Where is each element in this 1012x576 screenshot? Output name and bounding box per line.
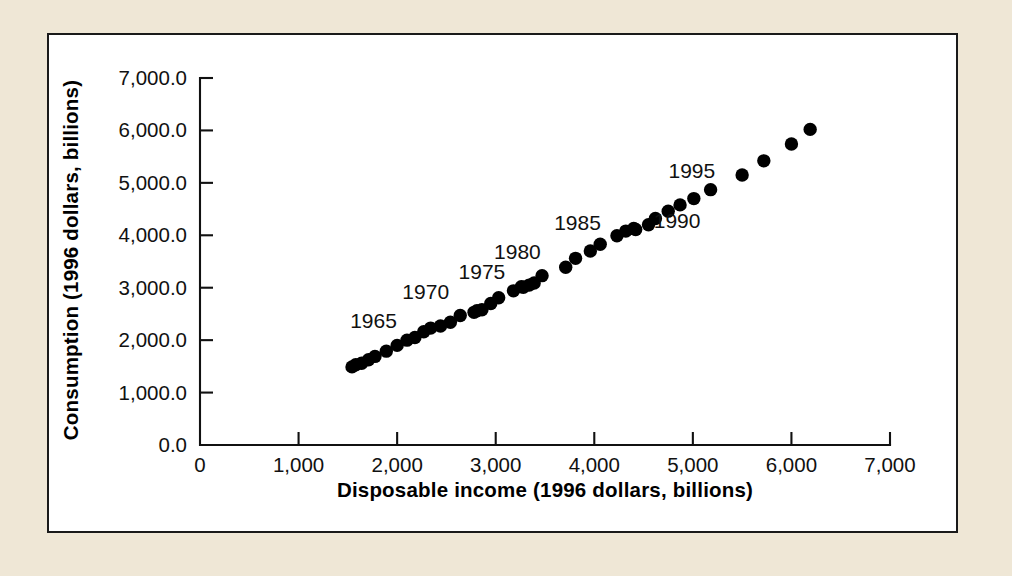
x-tick-label: 0 — [194, 453, 205, 476]
data-point — [454, 309, 467, 322]
data-point — [687, 192, 700, 205]
data-point — [569, 252, 582, 265]
data-point — [492, 291, 505, 304]
y-axis-title: Consumption (1996 dollars, billions) — [59, 80, 82, 440]
data-point — [785, 137, 798, 150]
y-tick-label: 7,000.0 — [119, 66, 187, 89]
year-annotation-1965: 1965 — [350, 309, 397, 332]
y-tick-label: 6,000.0 — [119, 118, 187, 141]
x-tick-label: 5,000 — [667, 453, 718, 476]
axis-ticks — [200, 78, 890, 445]
data-points — [345, 123, 817, 374]
data-point — [535, 269, 548, 282]
y-tick-label: 3,000.0 — [119, 276, 187, 299]
x-axis-title: Disposable income (1996 dollars, billion… — [337, 478, 753, 501]
year-annotation-1995: 1995 — [669, 159, 716, 182]
y-tick-label: 5,000.0 — [119, 171, 187, 194]
scatter-plot: 0.01,000.02,000.03,000.04,000.05,000.06,… — [0, 0, 1012, 576]
x-axis-tick-labels: 01,0002,0003,0004,0005,0006,0007,000 — [194, 453, 915, 476]
y-axis-tick-labels: 0.01,000.02,000.03,000.04,000.05,000.06,… — [119, 66, 187, 456]
year-annotations: 1965197019751980198519901995 — [350, 159, 715, 332]
y-tick-label: 1,000.0 — [119, 381, 187, 404]
data-point — [704, 183, 717, 196]
data-point — [757, 154, 770, 167]
data-point — [594, 237, 607, 250]
x-tick-label: 2,000 — [371, 453, 422, 476]
x-tick-label: 3,000 — [470, 453, 521, 476]
data-point — [629, 223, 642, 236]
year-annotation-1980: 1980 — [494, 240, 541, 263]
year-annotation-1990: 1990 — [654, 209, 701, 232]
year-annotation-1985: 1985 — [554, 211, 601, 234]
y-tick-label: 0.0 — [159, 433, 188, 456]
chart-figure: 0.01,000.02,000.03,000.04,000.05,000.06,… — [0, 0, 1012, 576]
x-tick-label: 6,000 — [766, 453, 817, 476]
y-tick-label: 2,000.0 — [119, 328, 187, 351]
y-tick-label: 4,000.0 — [119, 223, 187, 246]
year-annotation-1970: 1970 — [402, 280, 449, 303]
x-tick-label: 7,000 — [864, 453, 915, 476]
axes — [200, 78, 890, 445]
data-point — [803, 123, 816, 136]
x-tick-label: 1,000 — [273, 453, 324, 476]
x-tick-label: 4,000 — [569, 453, 620, 476]
data-point — [735, 168, 748, 181]
